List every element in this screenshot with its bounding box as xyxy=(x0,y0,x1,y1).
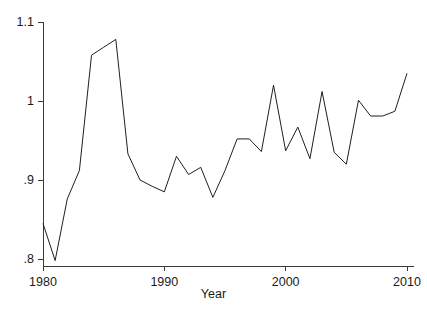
line-chart: .8.911.1 1980199020002010 Year xyxy=(0,0,427,311)
x-tick-label: 2010 xyxy=(393,276,421,289)
y-tick-label: 1.1 xyxy=(0,16,34,29)
x-axis-title: Year xyxy=(0,288,427,301)
x-axis-ticks xyxy=(43,266,407,271)
y-axis-ticks xyxy=(38,22,43,259)
x-tick-label: 1980 xyxy=(29,276,57,289)
data-series-line xyxy=(43,39,407,260)
plot-area xyxy=(0,0,427,311)
y-tick-label: .8 xyxy=(0,253,34,266)
x-tick-label: 2000 xyxy=(272,276,300,289)
y-tick-label: .9 xyxy=(0,174,34,187)
y-tick-label: 1 xyxy=(0,95,34,108)
axis-lines xyxy=(43,22,414,266)
x-tick-label: 1990 xyxy=(150,276,178,289)
